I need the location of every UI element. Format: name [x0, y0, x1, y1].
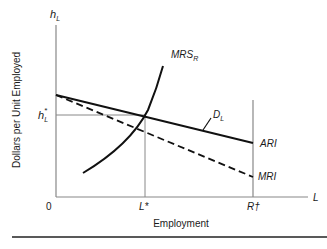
mrs-label: MRSR — [171, 49, 198, 62]
h-star-label: hL* — [38, 106, 48, 123]
y-axis-label: Dollars per Unit Employed — [11, 52, 22, 168]
labor-market-diagram: hL Dollars per Unit Employed hL* 0 L* R†… — [0, 0, 327, 249]
y-axis-symbol: hL — [50, 8, 60, 22]
x-axis-symbol: L — [313, 192, 319, 203]
demand-pointer — [203, 118, 211, 130]
mri-label: MRI — [258, 171, 277, 182]
mrs-curve — [83, 66, 163, 173]
r-dagger-label: R† — [247, 201, 260, 212]
l-star-label: L* — [139, 201, 150, 212]
origin-label: 0 — [46, 201, 52, 212]
demand-label: DL — [213, 109, 224, 122]
x-axis-label: Employment — [153, 218, 209, 229]
ari-label: ARI — [259, 138, 277, 149]
